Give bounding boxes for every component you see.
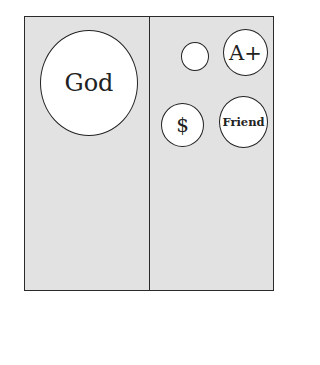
empty-circle <box>181 42 209 71</box>
money-circle: $ <box>161 103 204 147</box>
money-label: $ <box>176 113 189 137</box>
friend-circle: Friend <box>219 96 268 148</box>
god-circle: God <box>40 30 138 136</box>
friend-label: Friend <box>222 115 264 129</box>
grade-circle: A+ <box>223 29 268 76</box>
grade-label: A+ <box>229 41 262 65</box>
god-label: God <box>65 69 114 97</box>
